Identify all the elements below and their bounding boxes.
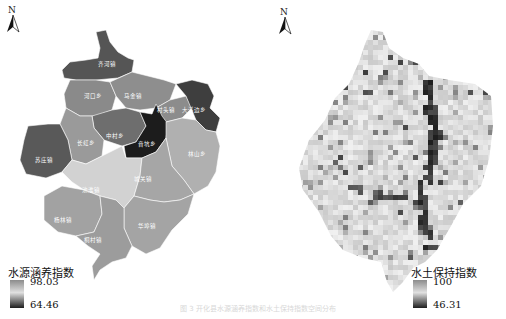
legend-min-value: 64.46	[30, 299, 59, 310]
region-label-8: 音坑乡	[138, 140, 156, 148]
region-label-0: 齐河镇	[98, 60, 116, 68]
region-label-14: 桐村镇	[84, 236, 102, 244]
legend-max-value: 100	[433, 276, 452, 287]
region-label-7: 苏庄镇	[35, 156, 53, 164]
region-label-3: 村头镇	[157, 106, 175, 114]
region-label-1: 河口乡	[84, 92, 102, 100]
region-label-9: 林山乡	[188, 150, 206, 158]
region-0[interactable]	[62, 30, 134, 80]
soil-conservation-raster	[253, 0, 506, 300]
legend-gradient-bar	[10, 280, 24, 308]
region-label-11: 城关镇	[134, 175, 152, 183]
region-12[interactable]	[44, 186, 102, 236]
region-label-4: 大溪边乡	[182, 106, 206, 114]
soil-conservation-map-panel: N 水土保持指数 100 46.31	[253, 0, 506, 300]
water-conservation-choropleth: 齐河镇 河口乡 马金镇 村头镇 大溪边乡 中村乡 长虹乡 苏庄镇 音坑乡 林山乡…	[0, 0, 253, 300]
region-13[interactable]	[124, 194, 194, 254]
region-label-6: 长虹乡	[77, 139, 95, 147]
region-label-2: 马金镇	[124, 92, 142, 100]
soil-conservation-legend: 水土保持指数 100 46.31	[411, 264, 477, 280]
region-label-13: 华埠镇	[138, 222, 156, 230]
legend-max-value: 98.03	[30, 276, 59, 287]
figure-caption: 图 3 开化县水源涵养指数和水土保持指数空间分布	[180, 303, 440, 313]
region-label-5: 中村乡	[106, 132, 124, 140]
region-label-10: 池淮镇	[82, 186, 100, 194]
water-conservation-map-panel: N 齐河镇 河口乡	[0, 0, 253, 300]
water-conservation-legend: 水源涵养指数 98.03 64.46	[8, 264, 74, 280]
region-label-12: 杨林镇	[54, 216, 72, 224]
